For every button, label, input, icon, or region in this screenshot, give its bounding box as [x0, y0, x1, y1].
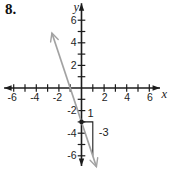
- y-axis-label: y: [71, 0, 79, 14]
- x-tick-label: -6: [8, 91, 17, 103]
- y-tick-label: -2: [67, 104, 76, 116]
- x-axis-left-arrow-icon: [4, 85, 12, 90]
- y-tick-label: 4: [71, 36, 77, 48]
- y-tick-label: -6: [67, 149, 76, 161]
- coordinate-plane: -6-4-2246-6-4-2246xy1-3: [0, 0, 170, 170]
- run-label: 1: [88, 107, 94, 119]
- graph-figure: 8. -6-4-2246-6-4-2246xy1-3: [0, 0, 170, 170]
- x-tick-label: 2: [102, 91, 108, 103]
- x-tick-label: -2: [53, 91, 62, 103]
- x-tick-label: 4: [124, 91, 130, 103]
- y-tick-label: 6: [71, 14, 77, 26]
- y-tick-label: 2: [71, 59, 77, 71]
- rise-label: -3: [99, 126, 109, 138]
- x-tick-label: 6: [147, 91, 153, 103]
- y-axis-down-arrow-icon: [79, 158, 84, 166]
- x-tick-label: -4: [30, 91, 39, 103]
- x-axis-label: x: [161, 87, 168, 101]
- marked-point: [79, 120, 84, 125]
- y-tick-label: -4: [67, 127, 76, 139]
- x-axis-right-arrow-icon: [153, 85, 161, 90]
- y-axis-up-arrow-icon: [79, 3, 84, 11]
